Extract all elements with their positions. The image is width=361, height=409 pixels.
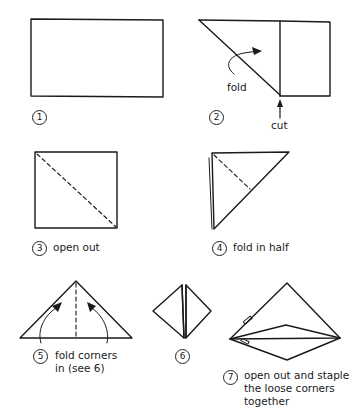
step-7-caption-line1: open out and staple	[244, 369, 349, 382]
step-4-number: 4	[212, 241, 227, 256]
step-2-cut-label: cut	[271, 119, 288, 132]
step-3-caption: open out	[53, 241, 100, 254]
step-5-triangle	[20, 281, 132, 343]
step-4-caption: fold in half	[233, 241, 289, 254]
step-7-hat	[230, 283, 340, 360]
folding-diagram	[0, 0, 361, 409]
step-6-number: 6	[175, 349, 190, 364]
step-7-number: 7	[223, 370, 238, 385]
step-2-fold-and-cut	[199, 20, 330, 118]
step-5-number: 5	[33, 349, 48, 364]
step-1-rectangle	[31, 19, 163, 97]
step-3-square	[35, 152, 117, 228]
step-6-diamond	[153, 285, 211, 338]
step-5-caption-line1: fold corners	[55, 349, 117, 362]
step-2-fold-label: fold	[227, 81, 247, 94]
step-7-caption-line2: the loose corners	[244, 382, 335, 395]
step-3-number: 3	[32, 241, 47, 256]
step-7-caption-line3: together	[244, 395, 289, 408]
step-5-caption-line2: in (see 6)	[55, 362, 105, 375]
step-2-number: 2	[209, 110, 224, 125]
step-1-number: 1	[32, 110, 47, 125]
step-4-triangle	[209, 152, 289, 229]
